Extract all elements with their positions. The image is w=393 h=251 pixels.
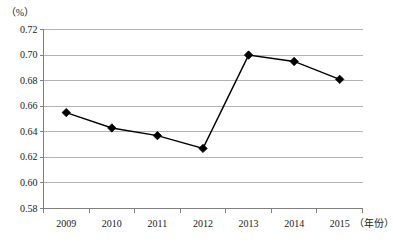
x-axis-tick-label: 2009	[56, 219, 76, 229]
y-axis-tick-label: 0.64	[4, 127, 38, 137]
y-axis-tick-label: 0.66	[4, 101, 38, 111]
line-chart: （%） 0.580.600.620.640.660.680.700.72 200…	[0, 0, 393, 251]
x-axis-tick-label: 2015	[330, 219, 350, 229]
data-point-marker	[290, 57, 298, 65]
y-axis-tick-label: 0.70	[4, 50, 38, 60]
gridlines	[44, 30, 363, 209]
x-axis-tick-label: 2014	[284, 219, 304, 229]
y-axis-tick-label: 0.68	[4, 76, 38, 86]
y-axis-tick-label: 0.72	[4, 25, 38, 35]
y-axis-ticks	[40, 30, 44, 209]
series-line	[66, 55, 339, 148]
data-point-marker	[108, 124, 116, 132]
x-axis-ticks	[44, 209, 363, 213]
x-axis-tick-label: 2013	[239, 219, 259, 229]
data-point-marker	[62, 108, 70, 116]
x-axis-tick-label: 2012	[193, 219, 213, 229]
x-axis-tick-label: 2011	[148, 219, 168, 229]
data-point-marker	[244, 51, 252, 59]
y-axis-tick-label: 0.62	[4, 152, 38, 162]
x-axis-tick-label: 2010	[102, 219, 122, 229]
y-axis-tick-label: 0.60	[4, 178, 38, 188]
data-point-marker	[153, 131, 161, 139]
data-point-marker	[199, 144, 207, 152]
x-axis-unit-label: （年份）	[354, 219, 393, 229]
series-markers	[62, 51, 344, 153]
data-point-marker	[336, 75, 344, 83]
y-axis-tick-label: 0.58	[4, 204, 38, 214]
plot-area	[0, 0, 393, 251]
